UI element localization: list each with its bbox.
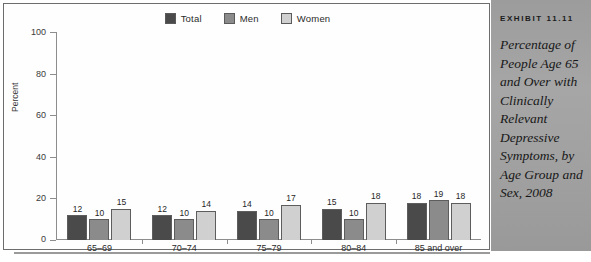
y-tick-label-20: 20 [6,193,46,203]
bar-value-label: 15 [117,198,126,207]
bar-holder-men: 19 [429,32,449,240]
bar-value-label: 18 [371,192,380,201]
bar-total[interactable] [322,209,342,240]
bar-value-label: 18 [456,192,465,201]
y-tick-20 [50,198,56,199]
bar-holder-women: 15 [111,32,131,240]
bar-men[interactable] [89,219,109,240]
bar-value-label: 10 [349,209,358,218]
bar-holder-women: 18 [451,32,471,240]
exhibit-number-label: EXHIBIT 11.11 [500,14,583,23]
y-tick-40 [50,157,56,158]
bar-holder-men: 10 [344,32,364,240]
bar-holder-total: 15 [322,32,342,240]
y-tick-label-100: 100 [6,27,46,37]
bar-holder-men: 10 [259,32,279,240]
bar-men[interactable] [429,200,449,240]
y-tick-label-80: 80 [6,69,46,79]
y-tick-label-40: 40 [6,152,46,162]
bar-holder-total: 12 [67,32,87,240]
bar-value-label: 10 [179,209,188,218]
bar-value-label: 14 [201,200,210,209]
bar-holder-men: 10 [89,32,109,240]
y-tick-label-0: 0 [6,234,46,244]
bar-holder-women: 14 [196,32,216,240]
bar-total[interactable] [152,215,172,240]
bar-holder-total: 12 [152,32,172,240]
y-tick-100 [50,32,56,33]
bar-group-75-79: 14 10 17 [227,32,312,240]
bar-women[interactable] [196,211,216,240]
bar-men[interactable] [344,219,364,240]
bars-area: 12 10 15 12 10 [57,32,481,240]
bar-group-65-69: 12 10 15 [57,32,142,240]
bar-holder-total: 18 [407,32,427,240]
bar-value-label: 18 [412,192,421,201]
exhibit-caption: Percentage of People Age 65 and Over wit… [500,36,583,203]
bar-value-label: 15 [327,198,336,207]
bar-total[interactable] [407,203,427,240]
bar-holder-women: 17 [281,32,301,240]
exhibit-panel: EXHIBIT 11.11 Percentage of People Age 6… [491,0,591,251]
bar-value-label: 12 [157,205,166,214]
y-axis-title: Percent [10,83,20,112]
bar-women[interactable] [366,203,386,240]
bar-value-label: 14 [242,200,251,209]
bar-value-label: 17 [286,194,295,203]
y-tick-60 [50,115,56,116]
chart-container: Total Men Women Percent 100 80 60 40 20 … [3,3,490,250]
footer-divider [14,252,490,254]
y-tick-label-60: 60 [6,110,46,120]
bar-group-80-84: 15 10 18 [311,32,396,240]
bar-women[interactable] [281,205,301,240]
bar-women[interactable] [451,203,471,240]
bar-men[interactable] [174,219,194,240]
bar-value-label: 12 [73,205,82,214]
bar-value-label: 10 [95,209,104,218]
bar-holder-men: 10 [174,32,194,240]
bar-total[interactable] [67,215,87,240]
bar-value-label: 19 [434,190,443,199]
bar-group-85-and-over: 18 19 18 [396,32,481,240]
bar-value-label: 10 [264,209,273,218]
bar-holder-women: 18 [366,32,386,240]
bar-women[interactable] [111,209,131,240]
bar-holder-total: 14 [237,32,257,240]
plot-area: Percent 100 80 60 40 20 0 12 [4,4,491,251]
bar-group-70-74: 12 10 14 [142,32,227,240]
y-tick-80 [50,74,56,75]
bar-total[interactable] [237,211,257,240]
bar-men[interactable] [259,219,279,240]
y-tick-0 [50,240,56,241]
